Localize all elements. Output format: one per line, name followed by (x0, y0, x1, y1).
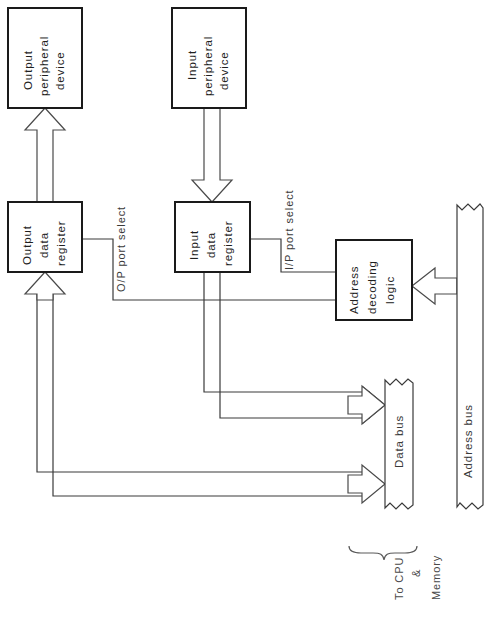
label-op-port-select: O/P port select (115, 206, 127, 292)
wire-data-bus-to-output-register-b (53, 290, 370, 496)
label-ip-port-select: I/P port select (283, 189, 295, 270)
arrow-head-data-bus-lower (348, 465, 385, 503)
label-input-peripheral-line1: Input (186, 50, 198, 80)
label-output-peripheral-line2: peripheral (38, 36, 50, 96)
label-address-decoder-line1: Address (348, 266, 360, 315)
label-input-register-line3: register (222, 220, 234, 266)
label-to-cpu-line1: To CPU (393, 557, 405, 600)
label-input-peripheral-line3: device (218, 51, 230, 90)
diagram-canvas: Output peripheral device Input periphera… (0, 0, 497, 620)
label-address-bus: Address bus (462, 404, 474, 478)
label-output-register-line3: register (55, 220, 67, 266)
label-output-peripheral-line1: Output (22, 50, 34, 90)
arrow-input-peripheral-to-input-register (192, 108, 232, 202)
arrow-address-bus-to-decoder (412, 268, 457, 304)
arrow-output-register-to-output-peripheral (25, 108, 65, 203)
label-input-peripheral-line2: peripheral (202, 36, 214, 96)
bus-brace (349, 546, 417, 560)
label-output-peripheral-line3: device (54, 51, 66, 90)
label-output-register-line1: Output (21, 225, 33, 265)
arrow-data-bus-into-output-register (25, 272, 65, 300)
label-input-register-line1: Input (188, 230, 200, 260)
label-to-cpu-line3: Memory (430, 555, 442, 600)
label-data-bus: Data bus (393, 415, 405, 468)
label-to-cpu-line2: & (410, 569, 422, 577)
label-address-decoder-line3: logic (384, 276, 396, 304)
label-address-decoder-line2: decoding (366, 260, 378, 314)
label-input-register-line2: data (205, 232, 217, 258)
label-output-register-line2: data (38, 232, 50, 258)
